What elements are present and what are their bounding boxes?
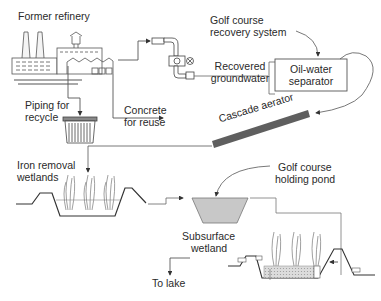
recycle-bin-icon: [63, 117, 97, 143]
label-golf-recovery-line1: Golf course: [210, 14, 264, 26]
label-recovered-line2: groundwater: [207, 72, 273, 84]
label-holding-pond-line2: holding pond: [275, 173, 335, 185]
wetland-plants-icon: [64, 175, 115, 210]
label-concrete-line1: Concrete: [124, 104, 167, 116]
label-iron-removal-line1: Iron removal: [17, 159, 75, 171]
label-former-refinery: Former refinery: [18, 10, 90, 22]
label-piping-line2: recycle: [25, 111, 58, 123]
label-subsurface-line1: Subsurface: [182, 230, 235, 242]
label-separator-line1: Oil-water: [275, 63, 347, 75]
subsurface-plants-icon: [272, 232, 321, 266]
label-iron-removal-line2: wetlands: [17, 171, 58, 183]
label-golf-recovery-line2: recovery system: [210, 26, 286, 38]
label-recovered-line1: Recovered: [210, 60, 270, 72]
pump-icon: [152, 38, 194, 79]
process-flow-diagram: [0, 0, 381, 301]
holding-pond: [192, 198, 248, 223]
iron-removal-wetland-basin: [16, 188, 146, 216]
label-subsurface-line2: wetland: [191, 242, 227, 254]
label-piping-line1: Piping for: [25, 99, 69, 111]
flow-to-pump: [118, 41, 150, 60]
refinery-icon: [12, 32, 113, 84]
label-concrete-line2: for reuse: [124, 116, 165, 128]
label-separator-line2: separator: [275, 75, 347, 87]
label-holding-pond-line1: Golf course: [278, 161, 332, 173]
label-to-lake: To lake: [152, 277, 185, 289]
